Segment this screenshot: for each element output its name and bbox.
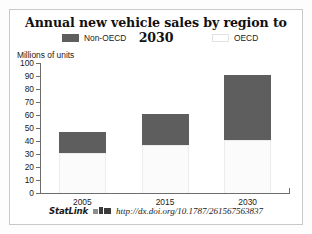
y-tick-mark	[36, 115, 40, 116]
chart-figure: Annual new vehicle sales by region to 20…	[0, 0, 312, 234]
y-tick-mark	[36, 180, 40, 181]
legend-swatch-oecd	[212, 34, 229, 42]
legend-item-non-oecd: Non-OECD	[62, 33, 126, 43]
legend-swatch-non-oecd	[62, 34, 79, 42]
y-tick-mark	[36, 63, 40, 64]
bar-segment-oecd	[142, 145, 189, 193]
y-tick-mark	[36, 141, 40, 142]
legend-label-oecd: OECD	[234, 33, 258, 43]
y-tick-mark	[36, 167, 40, 168]
statlink-url[interactable]: http://dx.doi.org/10.1787/261567563837	[116, 206, 263, 216]
y-tick-label: 30	[2, 150, 34, 158]
y-tick-label: 80	[2, 85, 34, 93]
y-tick-label: 10	[2, 176, 34, 184]
bar-segment-non-oecd	[142, 114, 189, 145]
y-tick-mark	[36, 193, 40, 194]
y-tick-label: 70	[2, 98, 34, 106]
chart-legend: Non-OECD OECD	[9, 33, 303, 47]
statlink-label: StatLink	[49, 206, 88, 216]
y-tick-label: 50	[2, 124, 34, 132]
x-tick-mark-end	[289, 188, 290, 193]
y-tick-mark	[36, 76, 40, 77]
y-tick-label: 90	[2, 72, 34, 80]
y-tick-mark	[36, 128, 40, 129]
legend-item-oecd: OECD	[212, 33, 258, 43]
bar-stack	[224, 63, 271, 193]
bar-segment-non-oecd	[224, 75, 271, 140]
y-tick-mark	[36, 102, 40, 103]
y-tick-label: 40	[2, 137, 34, 145]
bar-stack	[59, 63, 106, 193]
y-tick-label: 0	[2, 189, 34, 197]
bar-segment-oecd	[224, 140, 271, 193]
y-tick-mark	[36, 154, 40, 155]
legend-label-non-oecd: Non-OECD	[84, 33, 126, 43]
plot-area	[41, 63, 289, 193]
x-axis-line	[40, 193, 290, 194]
y-tick-label: 60	[2, 111, 34, 119]
statlink: StatLink http://dx.doi.org/10.1787/26156…	[9, 206, 303, 216]
statlink-barcode-icon	[93, 207, 111, 215]
y-tick-mark	[36, 89, 40, 90]
y-tick-label: 20	[2, 163, 34, 171]
bar-segment-non-oecd	[59, 132, 106, 153]
y-axis-labels: 0102030405060708090100	[0, 0, 34, 234]
y-tick-label: 100	[2, 59, 34, 67]
bar-stack	[142, 63, 189, 193]
bar-segment-oecd	[59, 153, 106, 193]
